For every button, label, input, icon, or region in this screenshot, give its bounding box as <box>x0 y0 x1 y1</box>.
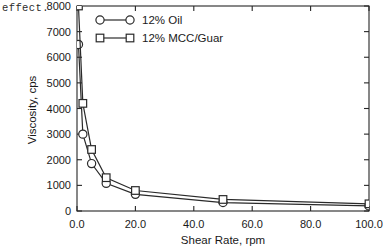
y-axis-title: Viscosity, cps <box>26 75 38 144</box>
data-point-marker <box>132 187 140 195</box>
x-tick-label: 0.0 <box>69 218 84 230</box>
y-axis-tick-labels: 010002000300040005000600070008000 <box>47 0 71 217</box>
data-point-marker <box>88 146 96 154</box>
y-tick-label: 4000 <box>47 103 71 115</box>
legend-square-marker <box>126 34 134 42</box>
y-tick-label: 0 <box>65 205 71 217</box>
legend-circle-marker <box>96 16 104 24</box>
data-point-marker <box>75 2 83 10</box>
x-tick-label: 20.0 <box>125 218 146 230</box>
legend-item: 12% Oil <box>96 14 182 26</box>
data-series-layer <box>74 2 373 210</box>
legend-square-marker <box>96 34 104 42</box>
data-point-marker <box>102 174 110 182</box>
series-line <box>78 6 369 204</box>
data-point-marker <box>365 200 373 208</box>
y-tick-label: 6000 <box>47 51 71 63</box>
series-mcc-guar <box>75 2 373 207</box>
legend-circle-marker <box>126 16 134 24</box>
legend-label: 12% Oil <box>142 14 182 26</box>
data-point-marker <box>74 40 82 48</box>
viscosity-shear-rate-chart: effect. 01000200030004000500060007000800… <box>0 0 383 249</box>
y-tick-label: 1000 <box>47 179 71 191</box>
data-point-marker <box>79 130 87 138</box>
legend-item: 12% MCC/Guar <box>96 32 223 44</box>
y-tick-label: 8000 <box>47 0 71 12</box>
y-tick-label: 7000 <box>47 26 71 38</box>
caption-fragment-text: effect. <box>2 2 49 14</box>
legend-label: 12% MCC/Guar <box>142 32 223 44</box>
data-point-marker <box>79 100 87 108</box>
y-tick-label: 5000 <box>47 77 71 89</box>
x-tick-label: 100.0 <box>355 218 383 230</box>
data-point-marker <box>88 159 96 167</box>
series-line <box>78 44 369 205</box>
y-tick-label: 3000 <box>47 128 71 140</box>
x-axis-title: Shear Rate, rpm <box>181 234 265 246</box>
series-oil <box>74 40 373 210</box>
chart-legend: 12% Oil12% MCC/Guar <box>96 14 223 44</box>
x-axis-tick-labels: 0.020.040.060.080.0100.0 <box>69 218 382 230</box>
x-tick-label: 80.0 <box>300 218 321 230</box>
x-tick-label: 60.0 <box>241 218 262 230</box>
chart-canvas: 010002000300040005000600070008000 0.020.… <box>0 0 383 249</box>
y-tick-label: 2000 <box>47 154 71 166</box>
x-tick-label: 40.0 <box>183 218 204 230</box>
data-point-marker <box>219 196 227 204</box>
